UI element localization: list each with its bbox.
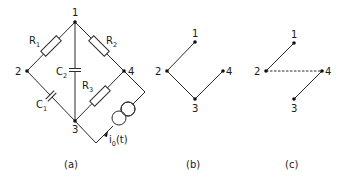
node-label-4: 4 (226, 66, 232, 77)
capacitor-c2 (69, 69, 81, 72)
node-label-3: 3 (192, 103, 198, 114)
node-4 (320, 69, 324, 73)
current-source-i0 (112, 102, 135, 125)
label-i0: i0(t) (109, 134, 128, 148)
node-3 (73, 119, 77, 123)
node-2 (165, 69, 169, 73)
label-c2: C2 (56, 66, 67, 80)
node-1 (193, 40, 197, 44)
edge-3-4 (195, 71, 223, 99)
resistor-r1 (41, 36, 62, 57)
node-1 (73, 20, 77, 24)
node-label-2: 2 (15, 66, 21, 77)
caption-b: (b) (186, 159, 200, 170)
circuit-figure: 1 2 3 4 R1 R2 C2 C1 R3 i0(t) (a) 1 2 3 4… (0, 0, 349, 181)
node-label-4: 4 (325, 66, 331, 77)
edge-1-2 (167, 42, 195, 71)
node-2 (25, 69, 29, 73)
label-r1: R1 (29, 35, 40, 49)
panel-a-circuit: 1 2 3 4 R1 R2 C2 C1 R3 i0(t) (a) (15, 7, 145, 170)
label-r2: R2 (106, 35, 117, 49)
panel-b-graph: 1 2 3 4 (b) (155, 28, 232, 170)
edge-1-2 (266, 43, 294, 71)
node-2 (264, 69, 268, 73)
edge-2-3 (167, 71, 195, 99)
panel-c-graph: 1 2 3 4 (c) (254, 29, 331, 170)
node-label-1: 1 (72, 7, 78, 18)
label-r3: R3 (82, 80, 93, 94)
node-4 (122, 69, 126, 73)
node-1 (292, 41, 296, 45)
node-4 (221, 69, 225, 73)
label-c1: C1 (36, 99, 47, 113)
node-label-2: 2 (155, 66, 161, 77)
node-label-3: 3 (72, 124, 78, 135)
node-label-1: 1 (291, 29, 297, 40)
node-label-2: 2 (254, 66, 260, 77)
node-label-3: 3 (291, 103, 297, 114)
edge-4-3 (294, 71, 322, 99)
node-3 (193, 97, 197, 101)
caption-a: (a) (64, 159, 78, 170)
node-label-4: 4 (128, 66, 134, 77)
node-3 (292, 97, 296, 101)
caption-c: (c) (285, 159, 298, 170)
node-label-1: 1 (192, 28, 198, 39)
